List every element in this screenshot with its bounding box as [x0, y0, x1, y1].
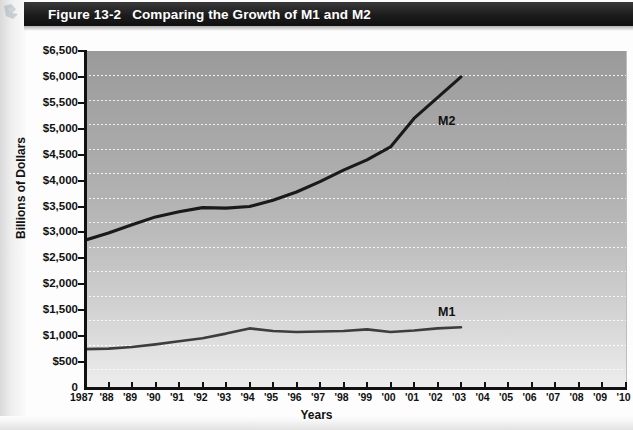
x-axis-tick [460, 382, 462, 389]
x-axis-title: Years [0, 408, 633, 422]
x-axis-tick [578, 382, 580, 389]
y-axis-tick-label: $2,000 [8, 277, 78, 289]
x-axis-tick [390, 382, 392, 389]
y-axis-tick [78, 154, 85, 156]
y-axis-tick [78, 76, 85, 78]
x-axis-tick-label: '03 [452, 391, 466, 403]
x-axis-tick [272, 382, 274, 389]
y-axis-tick-label: $5,500 [8, 96, 78, 108]
x-axis-tick-label: '01 [405, 391, 419, 403]
x-axis-tick-label: '07 [546, 391, 560, 403]
series-line-m1 [85, 327, 461, 349]
y-axis-tick [78, 361, 85, 363]
x-axis-tick [108, 382, 110, 389]
x-axis-tick [437, 382, 439, 389]
x-axis-tick-label: '08 [570, 391, 584, 403]
x-axis-line [84, 387, 627, 390]
series-label-m2: M2 [438, 114, 455, 128]
figure-header-bar: Figure 13-2 Comparing the Growth of M1 a… [24, 2, 633, 26]
y-axis-tick [78, 335, 85, 337]
y-axis-tick [78, 102, 85, 104]
y-axis-tick-label: $1,500 [8, 303, 78, 315]
figure-title: Comparing the Growth of M1 and M2 [132, 7, 371, 22]
x-axis-tick-label: '09 [593, 391, 607, 403]
x-axis-tick [155, 382, 157, 389]
series-line-m2 [85, 77, 461, 240]
x-axis-tick-label: '89 [123, 391, 137, 403]
x-axis-tick [601, 382, 603, 389]
x-axis-tick-label: '95 [264, 391, 278, 403]
y-axis-tick [78, 257, 85, 259]
y-axis-tick [78, 309, 85, 311]
x-axis-tick [554, 382, 556, 389]
x-axis-tick [413, 382, 415, 389]
x-axis-tick-label: '02 [429, 391, 443, 403]
x-axis-tick-label: '91 [170, 391, 184, 403]
y-axis-tick [78, 283, 85, 285]
figure-number: Figure 13-2 [48, 7, 121, 22]
x-axis-tick-label: '88 [100, 391, 114, 403]
x-axis-tick [484, 382, 486, 389]
x-axis-tick-label: '90 [147, 391, 161, 403]
y-axis-tick-label: $1,000 [8, 329, 78, 341]
y-axis-tick [78, 231, 85, 233]
y-axis-tick-label: $6,500 [8, 44, 78, 56]
x-axis-tick-label: '94 [241, 391, 255, 403]
x-axis-tick [507, 382, 509, 389]
y-axis-tick [78, 180, 85, 182]
x-axis-tick-label: '93 [217, 391, 231, 403]
y-axis-tick-label: $6,000 [8, 70, 78, 82]
y-axis-labels: $6,500$6,000$5,500$5,000$4,500$4,000$3,5… [0, 31, 78, 416]
series-label-m1: M1 [438, 305, 455, 319]
x-axis-tick [178, 382, 180, 389]
x-axis-tick [249, 382, 251, 389]
x-axis-tick [296, 382, 298, 389]
x-axis-tick-label: '99 [358, 391, 372, 403]
x-axis-tick-label: '06 [523, 391, 537, 403]
y-axis-tick-label: 0 [8, 381, 78, 393]
page-background: Figure 13-2 Comparing the Growth of M1 a… [0, 0, 633, 430]
x-axis-tick [225, 382, 227, 389]
chart-area: M2 M1 $6,500$6,000$5,500$5,000$4,500$4,0… [0, 31, 633, 416]
x-axis-tick [343, 382, 345, 389]
x-axis-tick-label: '00 [382, 391, 396, 403]
x-axis-tick-label: '92 [194, 391, 208, 403]
x-axis-tick-label: '96 [288, 391, 302, 403]
torn-page-corner-icon [2, 2, 24, 24]
data-lines [85, 51, 626, 388]
y-axis-title: Billions of Dollars [14, 123, 28, 253]
x-axis-tick [366, 382, 368, 389]
x-axis-tick [319, 382, 321, 389]
y-axis-line [84, 50, 87, 389]
x-axis-tick [131, 382, 133, 389]
x-axis-tick [531, 382, 533, 389]
x-axis-tick-label: '97 [311, 391, 325, 403]
y-axis-tick [78, 50, 85, 52]
y-axis-tick-label: $2,500 [8, 251, 78, 263]
x-axis-tick [202, 382, 204, 389]
x-axis-tick [625, 382, 627, 389]
x-axis-tick-label: '98 [335, 391, 349, 403]
x-axis-tick-label: '04 [476, 391, 490, 403]
y-axis-tick [78, 206, 85, 208]
y-axis-tick-label: $500 [8, 355, 78, 367]
x-axis-tick-label: '05 [499, 391, 513, 403]
x-axis-tick-label: '10 [617, 391, 631, 403]
y-axis-tick [78, 128, 85, 130]
x-axis-tick-label: 1987 [70, 391, 93, 403]
